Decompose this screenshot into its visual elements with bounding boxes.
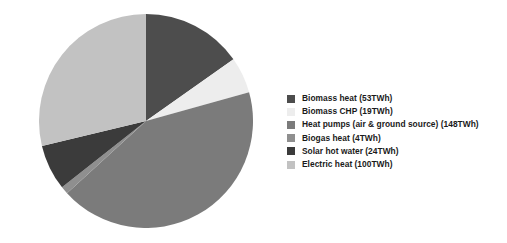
legend-swatch-icon (287, 121, 295, 129)
legend-item[interactable]: Solar hot water (24TWh) (287, 145, 502, 158)
legend-item-label: Biogas heat (4TWh) (302, 134, 381, 143)
pie-chart-plot-area (39, 14, 253, 228)
legend-item[interactable]: Heat pumps (air & ground source) (148TWh… (287, 118, 502, 131)
pie-chart-svg (39, 14, 253, 228)
legend-item[interactable]: Biomass heat (53TWh) (287, 92, 502, 105)
legend-swatch-icon (287, 95, 295, 103)
legend-swatch-icon (287, 108, 295, 116)
pie-chart-figure: Biomass heat (53TWh) Biomass CHP (19TWh)… (0, 0, 507, 243)
chart-legend: Biomass heat (53TWh) Biomass CHP (19TWh)… (287, 92, 502, 171)
legend-swatch-icon (287, 161, 295, 169)
legend-item-label: Electric heat (100TWh) (302, 160, 392, 169)
legend-swatch-icon (287, 147, 295, 155)
legend-item-label: Biomass CHP (19TWh) (302, 107, 393, 116)
legend-item[interactable]: Electric heat (100TWh) (287, 158, 502, 171)
legend-item[interactable]: Biomass CHP (19TWh) (287, 105, 502, 118)
legend-item-label: Solar hot water (24TWh) (302, 147, 399, 156)
legend-swatch-icon (287, 134, 295, 142)
legend-item[interactable]: Biogas heat (4TWh) (287, 132, 502, 145)
pie-slice-group (39, 14, 253, 228)
legend-item-label: Biomass heat (53TWh) (302, 94, 392, 103)
legend-item-label: Heat pumps (air & ground source) (148TWh… (302, 120, 479, 129)
